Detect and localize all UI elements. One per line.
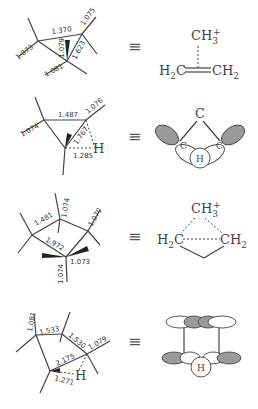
bond-label: 1.073 <box>14 43 35 62</box>
bond-label: 1.074 <box>19 122 41 139</box>
c-top-label: C <box>195 106 205 121</box>
bond-label: 1.533 <box>39 325 60 337</box>
bond-label: 1.074 <box>60 197 71 219</box>
structure-2: H 1.074 1.487 1.076 1.767 1.285 ≡ C C C … <box>0 95 258 190</box>
c-right-label: C <box>216 141 223 151</box>
equivalence-symbol: ≡ <box>128 227 141 246</box>
bond-label: 1.481 <box>33 211 54 228</box>
h-center-label: H <box>197 363 205 373</box>
h-center-label: H <box>196 154 204 164</box>
structure-3-drawing: 1.481 1.074 1.070 1.972 1.073 1.074 ≡ CH… <box>0 190 258 300</box>
bond-label: 1.079 <box>58 38 66 58</box>
c-left-label: C <box>180 141 187 151</box>
bond-label: 1.073 <box>70 258 90 266</box>
equivalence-symbol: ≡ <box>128 37 141 56</box>
ch3-label: CH3+ <box>191 200 221 219</box>
structure-4-drawing: H 1.081 1.533 1.530 1.079 2.175 1.271 ≡ … <box>0 300 258 409</box>
structure-2-drawing: H 1.074 1.487 1.076 1.767 1.285 ≡ C C C … <box>0 95 258 190</box>
h2c-label: H2C <box>157 232 184 250</box>
structure-1: 1.073 1.370 1.075 1.079 1.623 1.081 ≡ CH… <box>0 0 258 95</box>
h-atom-label: H <box>93 141 104 156</box>
ch2-label: CH2 <box>220 232 247 250</box>
bond-label: 1.074 <box>57 263 65 284</box>
structure-3: 1.481 1.074 1.070 1.972 1.073 1.074 ≡ CH… <box>0 190 258 300</box>
bond-label: 1.487 <box>58 111 78 119</box>
h-atom-label: H <box>75 368 86 383</box>
bond-label: 1.075 <box>79 6 97 27</box>
ch2-label: CH2 <box>212 63 239 81</box>
equivalence-symbol: ≡ <box>128 332 141 351</box>
structure-1-drawing: 1.073 1.370 1.075 1.079 1.623 1.081 ≡ CH… <box>0 0 258 95</box>
bond-label: 1.070 <box>87 207 104 228</box>
bond-label: 1.370 <box>51 25 72 36</box>
bond-label: 1.271 <box>53 374 74 387</box>
bond-label: 2.175 <box>54 352 76 368</box>
equivalence-symbol: ≡ <box>128 127 141 146</box>
bond-label: 1.081 <box>43 62 64 78</box>
bond-label: 1.079 <box>87 335 108 352</box>
structure-4: H 1.081 1.533 1.530 1.079 2.175 1.271 ≡ … <box>0 300 258 409</box>
h2c-label: H2C <box>159 63 186 81</box>
ch3-label: CH3+ <box>191 27 221 46</box>
bond-label: 1.285 <box>73 152 93 160</box>
